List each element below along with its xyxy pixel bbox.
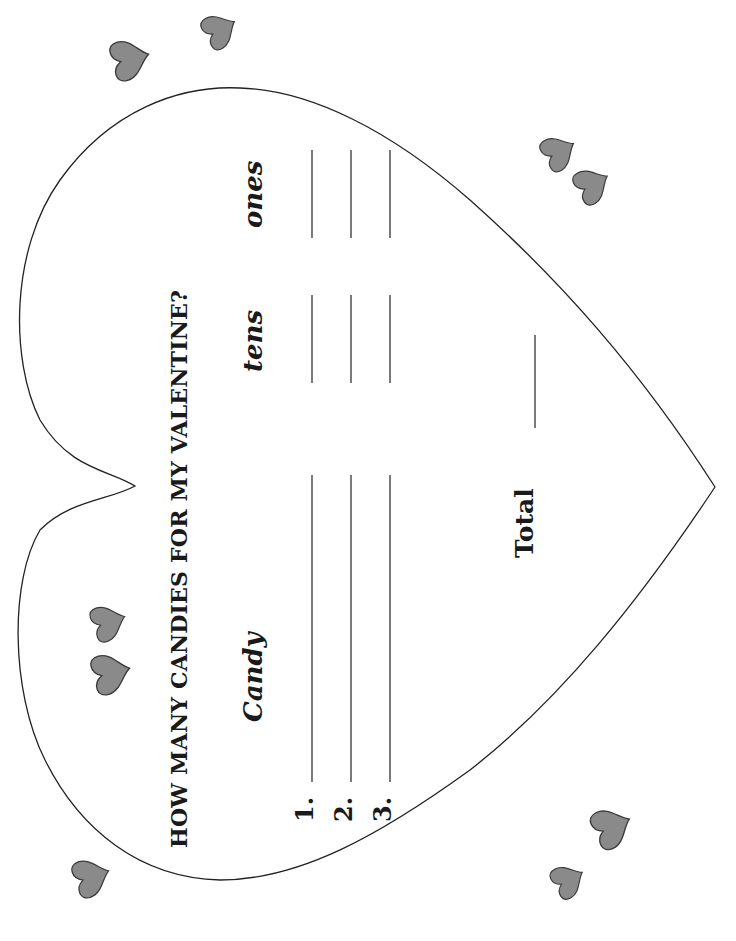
row-number-2: 2. bbox=[329, 797, 358, 822]
column-header-tens: tens bbox=[238, 310, 268, 372]
small-heart-icon bbox=[198, 7, 243, 53]
small-heart-icon bbox=[70, 853, 115, 900]
small-heart-icon bbox=[548, 858, 591, 902]
small-heart-icon bbox=[108, 35, 154, 83]
worksheet-title: HOW MANY CANDIES FOR MY VALENTINE? bbox=[166, 290, 192, 848]
total-label: Total bbox=[510, 488, 539, 558]
worksheet-page: HOW MANY CANDIES FOR MY VALENTINE? Candy… bbox=[0, 0, 736, 941]
row-number-3: 3. bbox=[368, 797, 397, 822]
small-heart-icon bbox=[570, 161, 616, 208]
small-heart-icon bbox=[588, 801, 638, 852]
column-header-candy: Candy bbox=[238, 632, 268, 722]
small-heart-icon bbox=[537, 129, 582, 175]
row-number-1: 1. bbox=[290, 797, 319, 822]
large-heart-outline bbox=[18, 88, 715, 880]
column-header-ones: ones bbox=[238, 161, 268, 228]
